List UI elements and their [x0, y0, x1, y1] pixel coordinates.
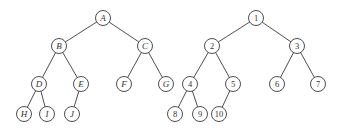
node-label: D — [35, 79, 43, 89]
tree-node-J: J — [65, 107, 80, 122]
edge-D-I — [41, 91, 45, 107]
tree-node-9: 9 — [193, 107, 208, 122]
edge-C-G — [149, 53, 163, 78]
tree-node-F: F — [117, 77, 132, 92]
node-label: 2 — [210, 41, 214, 51]
node-label: B — [56, 41, 62, 51]
edge-2-4 — [194, 52, 208, 77]
edge-D-H — [27, 91, 35, 108]
tree-node-2: 2 — [205, 39, 220, 54]
node-label: 6 — [275, 79, 279, 89]
node-label: H — [20, 109, 28, 119]
binary-tree-diagram: ABCDEFGHIJ12345678910 — [0, 0, 341, 135]
tree-node-B: B — [52, 39, 67, 54]
edge-3-6 — [280, 53, 293, 78]
tree-node-7: 7 — [311, 77, 326, 92]
node-label: 1 — [254, 13, 258, 23]
edge-2-5 — [216, 53, 230, 78]
nodes-layer: ABCDEFGHIJ12345678910 — [17, 11, 326, 122]
edge-A-B — [65, 22, 96, 42]
tree-node-G: G — [159, 77, 174, 92]
edge-3-7 — [301, 53, 315, 78]
edge-1-3 — [262, 22, 291, 42]
node-label: A — [99, 13, 106, 23]
node-label: 3 — [295, 41, 299, 51]
node-label: 9 — [198, 109, 202, 119]
edge-B-D — [42, 53, 55, 78]
edge-C-F — [128, 53, 142, 78]
tree-node-E: E — [74, 77, 89, 92]
node-label: G — [163, 79, 170, 89]
node-label: 10 — [215, 109, 224, 119]
tree-node-C: C — [138, 39, 153, 54]
edge-E-J — [74, 91, 79, 107]
edge-5-10 — [222, 91, 230, 107]
edge-1-2 — [218, 22, 249, 42]
node-label: 5 — [231, 79, 235, 89]
edges-layer — [27, 22, 314, 107]
node-label: 8 — [173, 109, 177, 119]
tree-node-4: 4 — [183, 77, 198, 92]
tree-node-10: 10 — [212, 107, 227, 122]
tree-node-H: H — [17, 107, 32, 122]
node-label: F — [120, 79, 127, 89]
edge-B-E — [63, 52, 77, 77]
tree-node-3: 3 — [290, 39, 305, 54]
edge-4-8 — [178, 91, 186, 108]
node-label: E — [77, 79, 84, 89]
tree-node-1: 1 — [249, 11, 264, 26]
tree-node-5: 5 — [226, 77, 241, 92]
tree-node-I: I — [40, 107, 55, 122]
node-label: C — [142, 41, 149, 51]
edge-A-C — [109, 22, 139, 42]
edge-4-9 — [192, 91, 197, 107]
tree-node-A: A — [96, 11, 111, 26]
tree-diagram-svg: ABCDEFGHIJ12345678910 — [0, 0, 341, 135]
tree-node-8: 8 — [168, 107, 183, 122]
tree-node-6: 6 — [270, 77, 285, 92]
node-label: 7 — [316, 79, 320, 89]
tree-node-D: D — [32, 77, 47, 92]
